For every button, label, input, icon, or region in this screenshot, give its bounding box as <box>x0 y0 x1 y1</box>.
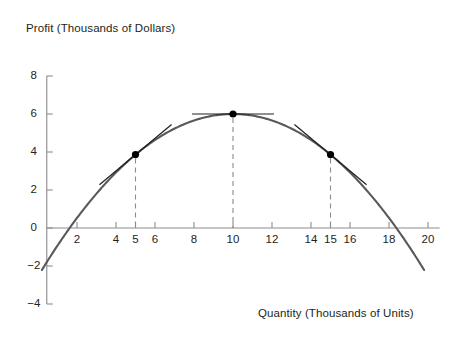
data-point-0 <box>132 151 139 158</box>
y-tick-label-0: 0 <box>14 221 54 233</box>
x-tick-label-16: 16 <box>330 233 370 245</box>
x-tick-label-20: 20 <box>408 233 448 245</box>
x-tick-label-6: 6 <box>135 233 175 245</box>
x-tick-label-8: 8 <box>174 233 214 245</box>
y-tick-label-4: 4 <box>14 145 54 157</box>
y-tick-label-8: 8 <box>14 69 54 81</box>
data-point-1 <box>229 110 236 117</box>
x-tick-label-12: 12 <box>252 233 292 245</box>
y-tick-label--2: −2 <box>14 259 54 271</box>
y-tick-label-2: 2 <box>14 183 54 195</box>
plot-area <box>0 0 461 340</box>
x-tick-label-2: 2 <box>57 233 97 245</box>
y-tick-label--4: −4 <box>14 297 54 309</box>
profit-quantity-chart: Profit (Thousands of Dollars) Quantity (… <box>0 0 461 340</box>
y-tick-label-6: 6 <box>14 107 54 119</box>
x-tick-label-18: 18 <box>369 233 409 245</box>
x-tick-label-10: 10 <box>213 233 253 245</box>
data-point-2 <box>327 151 334 158</box>
